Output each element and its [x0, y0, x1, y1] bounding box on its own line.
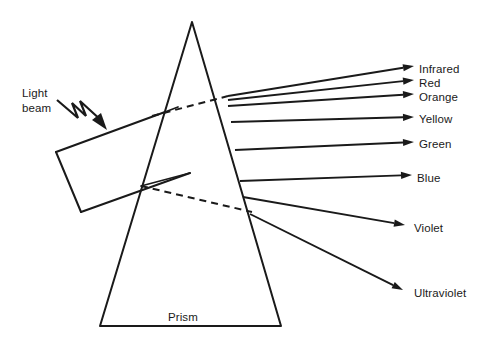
arrowhead-ultraviolet-icon: [392, 282, 403, 290]
beam-top-edge: [56, 112, 165, 152]
arrowhead-orange-icon: [403, 91, 414, 98]
arrowhead-red-icon: [403, 78, 414, 85]
spectrum-ray-infrared: [228, 68, 403, 96]
spectrum-label-green: Green: [419, 137, 451, 152]
beam-bottom-entry-stub: [141, 173, 190, 186]
spectrum-label-blue: Blue: [417, 171, 440, 186]
spectrum-label-violet: Violet: [414, 221, 443, 236]
arrowhead-yellow-icon: [403, 114, 414, 121]
light-beam-label-line2: beam: [22, 101, 51, 116]
spectrum-ray-violet: [243, 197, 394, 223]
spectrum-label-red: Red: [419, 76, 440, 91]
incident-beam-parallelogram-icon: [56, 112, 190, 212]
zigzag-arrow-head: [92, 113, 107, 130]
prism-label: Prism: [168, 310, 198, 325]
spectrum-label-ultraviolet: Ultraviolet: [414, 286, 466, 301]
triangle-prism-icon: [100, 22, 281, 326]
spectrum-ray-green: [235, 142, 403, 150]
arrowhead-infrared-icon: [403, 64, 414, 71]
arrowhead-blue-icon: [401, 172, 412, 179]
dashed-refraction-line-icon: [141, 96, 252, 212]
spectrum-ray-yellow: [231, 117, 403, 122]
light-beam-label: Light beam: [22, 86, 51, 116]
arrowhead-green-icon: [403, 139, 414, 146]
spectrum-label-infrared: Infrared: [419, 62, 459, 77]
prism-dispersion-diagram: Light beam Prism InfraredRedOrangeYellow…: [0, 0, 481, 344]
arrowhead-violet-icon: [394, 220, 405, 227]
spectrum-label-orange: Orange: [419, 90, 458, 105]
beam-left-edge: [56, 152, 81, 212]
spectrum-ray-group: [228, 64, 414, 290]
prism-outline-path: [100, 22, 281, 326]
light-beam-label-line1: Light: [22, 86, 51, 101]
lower-dashed-refraction-line: [141, 186, 252, 212]
zigzag-arrow-icon: [57, 100, 107, 130]
spectrum-ray-blue: [240, 175, 401, 181]
spectrum-ray-ultraviolet: [250, 214, 393, 285]
diagram-canvas: [0, 0, 481, 344]
spectrum-label-yellow: Yellow: [419, 112, 452, 127]
